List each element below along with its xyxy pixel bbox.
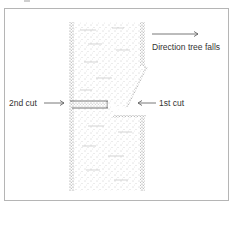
first-cut-label: 1st cut: [159, 98, 184, 108]
direction-label: Direction tree falls: [152, 42, 220, 52]
trunk-lower: [70, 106, 144, 191]
second-cut-label: 2nd cut: [9, 98, 37, 108]
